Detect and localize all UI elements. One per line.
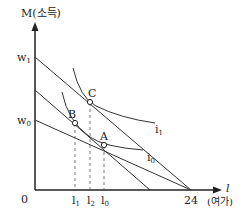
budget-line-w0 — [35, 120, 191, 190]
w1-label: w1 — [17, 51, 31, 65]
indifference-curve-i1 — [73, 68, 155, 123]
point-a-label: A — [99, 130, 109, 143]
point-b-marker — [72, 120, 77, 125]
point-c-label: C — [88, 87, 96, 100]
labor-leisure-diagram: M(소득) w1 w0 C B A i1 i0 0 l1 l2 l0 24 l … — [0, 0, 249, 217]
budget-line-w1 — [35, 57, 191, 190]
x-axis-label: (여가) — [207, 196, 233, 207]
x-axis-arrow-icon — [213, 187, 222, 194]
curve-i0-label: i0 — [147, 151, 155, 165]
tick-l1-label: l1 — [72, 194, 80, 208]
x-max-label: 24 — [184, 194, 198, 207]
y-axis-label: M(소득) — [21, 7, 61, 20]
curve-i1-label: i1 — [155, 123, 163, 137]
point-c-marker — [87, 99, 92, 104]
point-b-label: B — [68, 108, 76, 121]
origin-label: 0 — [21, 193, 28, 206]
y-axis-arrow-icon — [32, 22, 39, 31]
w0-label: w0 — [17, 114, 31, 128]
x-axis-symbol: l — [226, 182, 230, 195]
point-a-marker — [101, 142, 106, 147]
tick-l0-label: l0 — [101, 194, 109, 208]
tick-l2-label: l2 — [87, 194, 95, 208]
